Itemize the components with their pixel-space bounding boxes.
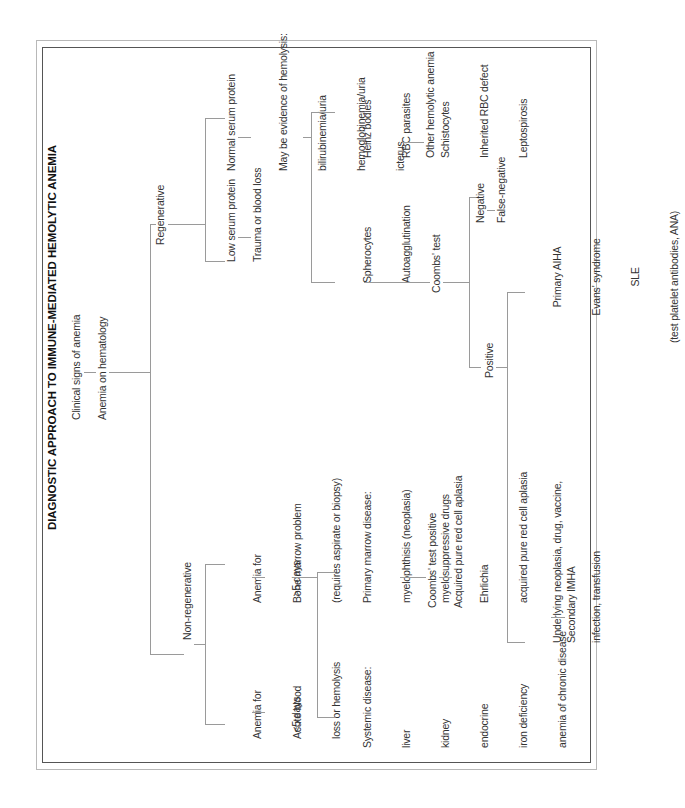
connector <box>551 617 565 618</box>
connector <box>205 261 225 262</box>
connector <box>311 282 335 283</box>
connector <box>168 224 205 225</box>
connector <box>496 367 507 368</box>
connector <box>400 577 426 578</box>
node-anemia-hematology: Anemia on hematology <box>96 317 109 420</box>
split-line <box>205 119 206 262</box>
node-non-regenerative: Non-regenerative <box>181 562 194 640</box>
connector <box>439 577 452 578</box>
connector <box>238 137 251 138</box>
flowchart-canvas: DIAGNOSTIC APPROACH TO IMMUNE-MEDIATED H… <box>42 47 591 763</box>
connector <box>317 717 335 718</box>
node-spherocytes: Spherocytes Autoagglutination <box>335 205 439 283</box>
node-trauma: Trauma or blood loss <box>251 168 264 262</box>
node-primary-marrow-disease: Primary marrow disease: myelophthisis (n… <box>335 472 556 603</box>
connector <box>84 372 96 373</box>
connector <box>205 724 225 725</box>
page-title: DIAGNOSTIC APPROACH TO IMMUNE-MEDIATED H… <box>46 145 58 530</box>
connector <box>205 118 225 119</box>
node-clinical-signs: Clinical signs of anemia <box>70 314 83 420</box>
connector <box>252 712 265 713</box>
node-coombs-positive: Coombs' test positive <box>426 513 439 608</box>
node-low-serum-protein: Low serum protein <box>225 179 238 262</box>
connector <box>292 577 317 578</box>
connector <box>238 237 251 238</box>
connector <box>469 367 481 368</box>
node-positive: Positive <box>483 343 496 378</box>
node-coombs-test: Coombs' test <box>430 234 443 293</box>
connector <box>303 137 311 138</box>
connector <box>402 142 424 143</box>
connector <box>507 292 525 293</box>
connector <box>109 372 150 373</box>
split-line <box>205 565 206 725</box>
node-false-negative: False-negative <box>495 157 508 223</box>
connector <box>205 564 225 565</box>
connector <box>487 210 495 211</box>
node-normal-serum-protein: Normal serum protein <box>225 74 238 171</box>
connector <box>317 572 335 573</box>
connector <box>443 282 469 283</box>
node-acquired-prca: Acquired pure red cell aplasia <box>452 476 465 608</box>
split-line <box>150 225 151 655</box>
node-other-causes: Heinz bodies RBC parasites Schistocytes … <box>335 65 556 158</box>
node-primary-aiha: Primary AIHA Evans' syndrome SLE (test p… <box>525 211 685 343</box>
node-systemic-disease: Systemic disease: liver kidney endocrine… <box>335 631 595 748</box>
connector <box>311 112 335 113</box>
split-line <box>469 198 470 368</box>
connector <box>252 577 265 578</box>
connector <box>194 644 205 645</box>
connector <box>364 282 430 283</box>
split-line <box>311 113 312 283</box>
node-regenerative: Regenerative <box>154 185 167 245</box>
node-other-hemolytic-anemia: Other hemolytic anemia <box>424 52 437 158</box>
connector <box>150 654 184 655</box>
node-negative: Negative <box>474 183 487 223</box>
split-line <box>317 573 318 718</box>
